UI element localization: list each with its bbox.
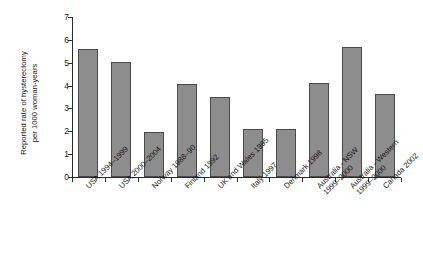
bar [177,84,197,177]
bar [210,97,230,177]
bar [243,129,263,177]
x-tick-mark [269,178,270,182]
y-tick-label: 5 [64,59,69,67]
bar [342,47,362,177]
y-axis-line [72,17,73,178]
x-tick-mark [204,178,205,182]
x-tick-mark [72,178,73,182]
bar [144,132,164,177]
bar [111,62,131,177]
y-axis-title-line-1: Reported rate of hysterectomy [19,23,30,183]
x-tick-mark [401,178,402,182]
y-tick-label: 7 [64,13,69,21]
x-tick-mark [237,178,238,182]
hysterectomy-rate-bar-chart: Reported rate of hysterectomy per 1000 w… [0,0,423,270]
y-tick-label: 2 [64,127,69,135]
y-tick-label: 6 [64,36,69,44]
x-tick-mark [171,178,172,182]
bar [309,83,329,177]
y-tick-label: 1 [64,150,69,158]
bar [375,94,395,177]
bar [276,129,296,177]
x-tick-mark [302,178,303,182]
y-axis-title-line-2: per 1000 woman-years [30,23,41,183]
bar [78,49,98,177]
y-tick-label: 3 [64,104,69,112]
x-tick-mark [335,178,336,182]
plot-area: 01234567 [72,17,401,177]
x-tick-mark [138,178,139,182]
x-tick-mark [368,178,369,182]
y-tick-label: 0 [64,173,69,181]
y-tick-label: 4 [64,81,69,89]
x-tick-mark [105,178,106,182]
y-axis-title: Reported rate of hysterectomy per 1000 w… [19,23,49,183]
